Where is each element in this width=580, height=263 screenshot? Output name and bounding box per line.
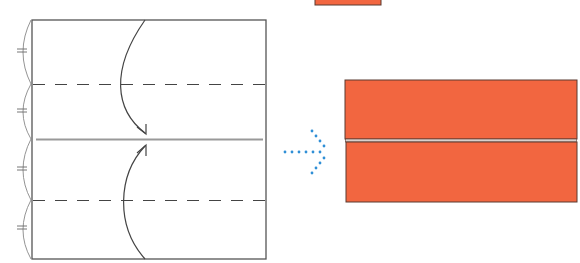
folded-paper xyxy=(345,80,577,202)
fold-diagram xyxy=(0,0,580,263)
next-step-arrow-icon xyxy=(284,130,326,175)
bottom-flap xyxy=(346,142,577,202)
previous-step-paper xyxy=(315,0,381,5)
top-flap xyxy=(345,80,577,139)
equal-division-marks xyxy=(17,20,31,259)
unfolded-paper xyxy=(32,20,266,259)
